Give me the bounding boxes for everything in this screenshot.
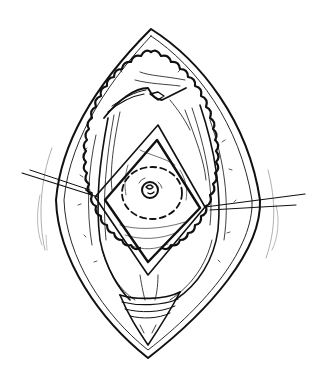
central-stoma	[139, 178, 162, 198]
muscle-fibers	[89, 100, 227, 300]
top-tissue-flap	[104, 72, 186, 118]
faint-contour-lines	[38, 148, 279, 258]
illustration-canvas	[0, 0, 327, 384]
diamond-fascial-opening	[95, 125, 205, 275]
right-suture	[205, 194, 305, 210]
surgical-illustration: Surgical line illustration of an ellipti…	[0, 0, 327, 384]
